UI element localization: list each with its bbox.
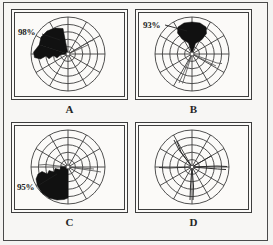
figure-outer-frame: 98% A [3,2,268,241]
panel-a-caption: A [11,100,128,118]
panel-a-polar-plot [15,13,122,94]
panel-d-origin-marker [190,165,194,169]
panel-c-polar-plot [15,126,122,207]
panel-a: 98% A [11,9,128,118]
panel-b-box: 93% [135,9,252,100]
panel-c-box: 95% [11,122,128,213]
panel-b-leader-line [165,24,191,36]
panel-d: D [135,122,252,231]
panel-d-box [135,122,252,213]
panel-d-trace [159,140,227,200]
panel-c-caption: C [11,213,128,231]
panel-c-leader-line [39,173,61,187]
panel-b-caption: B [135,100,252,118]
panel-a-leader-line [42,32,64,44]
panel-a-origin-marker [66,52,70,56]
panel-b-percent-label: 93% [143,20,160,30]
panel-c-origin-marker [66,165,70,169]
panel-b: 93% B [135,9,252,118]
panel-d-polar-plot [139,126,246,207]
panel-c: 95% C [11,122,128,231]
panel-a-percent-label: 98% [18,27,35,37]
panel-b-origin-marker [190,52,194,56]
panel-c-percent-label: 95% [17,182,34,192]
panel-d-caption: D [135,213,252,231]
panel-a-box: 98% [11,9,128,100]
figure-root: 98% A [0,0,273,245]
